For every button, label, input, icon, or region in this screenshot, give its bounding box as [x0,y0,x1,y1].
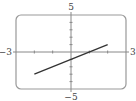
graph: −3 3 5 −5 [0,0,136,101]
y-max-label: 5 [68,2,74,12]
x-max-label: 3 [130,47,136,57]
x-min-label: −3 [0,47,12,57]
y-min-label: −5 [64,92,78,101]
